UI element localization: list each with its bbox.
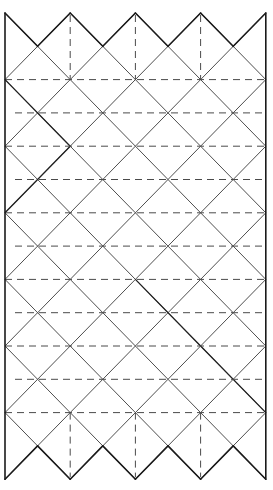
diagonal-crease (38, 379, 71, 412)
diagonal-crease (168, 346, 201, 379)
diagonal-crease (233, 146, 266, 179)
diagonal-crease (233, 46, 266, 79)
diagonal-crease (103, 46, 136, 79)
diagonal-crease (38, 80, 71, 113)
diagonal-crease (135, 379, 168, 412)
diagonal-crease (201, 313, 234, 346)
bottom-zigzag-edge (135, 446, 168, 479)
diagonal-crease (233, 313, 266, 346)
diagonal-crease (5, 246, 38, 279)
diagonal-crease (38, 246, 71, 279)
diagonal-crease (168, 279, 201, 312)
diagonal-crease (233, 279, 266, 312)
diagonal-crease (233, 180, 266, 213)
diagonal-crease (103, 180, 136, 213)
diagonal-crease (38, 413, 71, 446)
diagonal-crease (38, 213, 71, 246)
diagonal-crease (233, 413, 266, 446)
bottom-zigzag-edge (38, 446, 71, 479)
top-zigzag-edge (135, 13, 168, 46)
bottom-zigzag-edge (103, 446, 136, 479)
diagonal-crease (135, 46, 168, 79)
diagonal-crease (103, 379, 136, 412)
diagonal-crease (70, 346, 103, 379)
diagonal-crease (201, 180, 234, 213)
diagonal-crease (70, 146, 103, 179)
bottom-zigzag-edge (70, 446, 103, 479)
diagonal-crease (38, 279, 71, 312)
diagonal-crease (135, 146, 168, 179)
diagonal-crease (103, 346, 136, 379)
diagonal-crease (38, 346, 71, 379)
diagonal-crease (135, 313, 168, 346)
bottom-zigzag-edge (201, 446, 234, 479)
top-zigzag-edge (38, 13, 71, 46)
diagonal-crease (135, 213, 168, 246)
diagonal-crease (70, 213, 103, 246)
bottom-zigzag-edge (168, 446, 201, 479)
crease-pattern-diagram (0, 0, 273, 490)
diagonal-crease (5, 279, 38, 312)
diagonal-crease (233, 80, 266, 113)
diagonal-crease (103, 213, 136, 246)
diagonal-crease (103, 146, 136, 179)
diagonal-crease (5, 113, 38, 146)
diagonal-crease (38, 313, 71, 346)
diagonal-crease (201, 213, 234, 246)
diagonal-crease (103, 313, 136, 346)
dashed-horizontal-creases (5, 80, 266, 413)
diagonal-crease (201, 246, 234, 279)
diagonal-crease (233, 246, 266, 279)
diagonal-crease (38, 46, 71, 79)
diagonal-crease (233, 346, 266, 379)
diagonal-crease (103, 279, 136, 312)
diagonal-crease (168, 379, 201, 412)
top-zigzag-edge (233, 13, 266, 46)
top-zigzag-edge (103, 13, 136, 46)
diagonal-crease (201, 413, 234, 446)
diagonal-crease (201, 46, 234, 79)
diagonal-crease (70, 246, 103, 279)
diagonal-crease (201, 80, 234, 113)
diagonal-crease (5, 313, 38, 346)
diagonal-crease (70, 413, 103, 446)
diagonal-crease (201, 279, 234, 312)
top-zigzag-edge (5, 13, 38, 46)
diagonal-crease (70, 379, 103, 412)
diagonal-crease (103, 113, 136, 146)
diagonal-crease (135, 180, 168, 213)
diagonal-crease (168, 146, 201, 179)
diagonal-crease (135, 80, 168, 113)
top-zigzag-edge (70, 13, 103, 46)
diagonal-crease (70, 313, 103, 346)
diagonal-crease (135, 413, 168, 446)
diagonal-crease (70, 80, 103, 113)
diagonal-crease (38, 180, 71, 213)
diagonal-crease (5, 413, 38, 446)
diagonal-crease (168, 113, 201, 146)
diagonal-crease (103, 246, 136, 279)
diagonal-crease (233, 113, 266, 146)
diagonal-crease (70, 113, 103, 146)
diagonal-crease (5, 346, 38, 379)
diagonal-crease (5, 146, 38, 179)
diagonal-crease (135, 246, 168, 279)
diagonal-crease (168, 213, 201, 246)
diagonal-crease (103, 413, 136, 446)
diagonal-crease (201, 146, 234, 179)
diagonal-crease (168, 80, 201, 113)
diagonal-crease (168, 46, 201, 79)
diagonal-crease (201, 379, 234, 412)
diagonal-crease (70, 46, 103, 79)
top-zigzag-edge (201, 13, 234, 46)
diagonal-crease (70, 279, 103, 312)
diagonal-crease (5, 213, 38, 246)
diagonal-crease (168, 246, 201, 279)
diagonal-crease (135, 113, 168, 146)
diagonal-crease (233, 213, 266, 246)
top-zigzag-edge (168, 13, 201, 46)
diagonal-crease (70, 180, 103, 213)
diagonal-crease (135, 346, 168, 379)
diagonal-crease (5, 46, 38, 79)
diagonal-crease (5, 379, 38, 412)
